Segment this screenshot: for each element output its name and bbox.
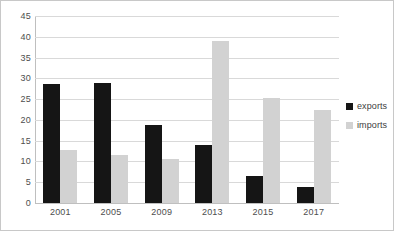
y-tick-label: 5 [1,177,31,187]
y-tick-label: 45 [1,11,31,21]
bar-imports-2017 [314,110,331,203]
y-tick-label: 0 [1,198,31,208]
y-axis-tick-labels: 454035302520151050 [1,16,31,203]
bar-imports-2001 [60,150,77,203]
bar-exports-2017 [297,187,314,203]
y-tick-label: 30 [1,73,31,83]
bar-groups [35,16,339,203]
y-tick-label: 15 [1,136,31,146]
bar-group [136,16,187,203]
bar-group [238,16,289,203]
bar-exports-2015 [246,176,263,203]
legend-swatch-icon [346,103,353,110]
x-tick-label: 2001 [35,207,86,217]
y-tick-label: 20 [1,115,31,125]
bar-exports-2009 [145,125,162,203]
bar-group [86,16,137,203]
x-tick-label: 2017 [288,207,339,217]
chart-legend: exportsimports [346,101,387,130]
bar-group [288,16,339,203]
y-tick-label: 35 [1,53,31,63]
plot-area [35,16,339,203]
x-tick-label: 2015 [238,207,289,217]
x-tick-label: 2013 [187,207,238,217]
bar-imports-2005 [111,155,128,203]
bar-imports-2009 [162,159,179,203]
gridline [35,203,339,204]
bar-imports-2013 [212,41,229,203]
bar-exports-2013 [195,145,212,203]
bar-imports-2015 [263,98,280,203]
bar-group [187,16,238,203]
legend-label: exports [357,101,387,111]
legend-entry-exports[interactable]: exports [346,101,387,111]
y-tick-label: 25 [1,94,31,104]
x-axis-tick-labels: 200120052009201320152017 [35,207,339,217]
y-tick-label: 40 [1,32,31,42]
x-tick-label: 2005 [86,207,137,217]
legend-swatch-icon [346,122,353,129]
bar-group [35,16,86,203]
x-tick-label: 2009 [136,207,187,217]
bar-exports-2005 [94,83,111,204]
legend-entry-imports[interactable]: imports [346,120,387,130]
legend-label: imports [357,120,387,130]
chart-figure: 454035302520151050 200120052009201320152… [0,0,394,231]
y-tick-label: 10 [1,156,31,166]
bar-exports-2001 [43,84,60,203]
